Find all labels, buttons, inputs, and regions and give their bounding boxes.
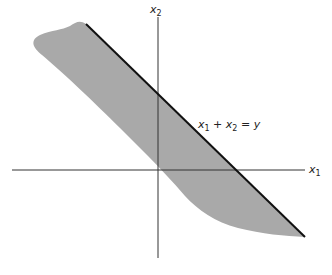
x2-axis-label: x2 [150,3,162,18]
x1-axis-label-sub: 1 [316,169,321,178]
x1-axis-label: x1 [309,163,321,178]
eq-part: = y [237,118,260,131]
line-equation-label: x1 + x2 = y [198,118,260,133]
x2-axis-label-sub: 2 [157,9,162,18]
eq-part: + x [210,118,233,131]
shaded-region [33,22,305,237]
diagram-canvas [0,0,332,275]
